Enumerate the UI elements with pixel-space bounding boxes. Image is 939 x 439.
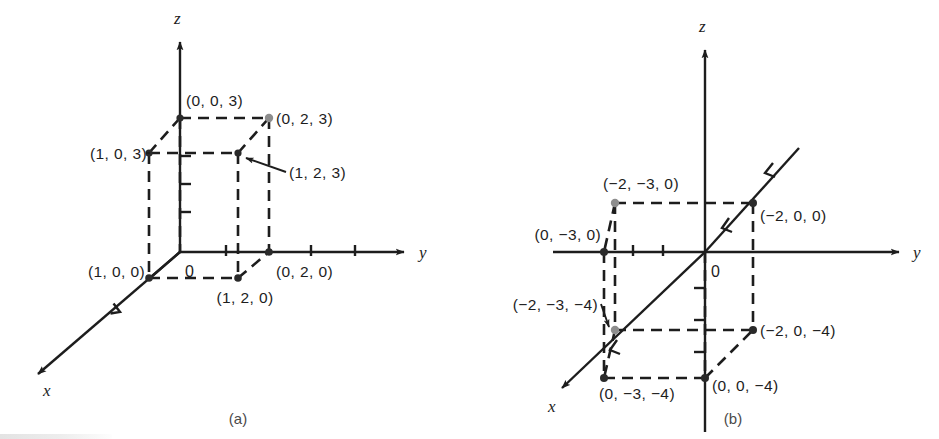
panel-a: z y x 0 (0, 0, 3) (0, 2, 3) (1, 0, 3) (1… [38,9,427,427]
panel-a-edge-origin-to-100 [150,252,180,278]
panel-b-label-0n30: (0, −3, 0) [535,226,601,243]
panel-b-label-n20n4: (−2, 0, −4) [760,322,836,339]
panel-a-vertex-120 [234,274,242,282]
panel-a-x-axis-label: x [42,381,51,400]
panel-b-edge-n2n3n4-to-0n3n4 [604,330,615,378]
coordinate-systems-figure: z y x 0 (0, 0, 3) (0, 2, 3) (1, 0, 3) (1… [0,0,939,439]
panel-a-label-123: (1, 2, 3) [289,164,346,181]
panel-b-vertex-n200 [749,199,757,207]
panel-b-label-n200: (−2, 0, 0) [760,207,826,224]
page-edge-artifact [0,434,112,439]
panel-a-vertex-100 [145,274,153,282]
panel-b-vertex-n2n30 [611,199,619,207]
panel-b-caption: (b) [724,410,742,427]
panel-a-vertex-123 [234,149,241,156]
panel-a-leader-123 [246,158,286,172]
panel-a-z-axis-label: z [173,9,181,28]
panel-a-origin-label: 0 [185,263,194,280]
panel-a-label-100: (1, 0, 0) [88,263,145,280]
panel-a-edge-003-to-103 [149,118,180,153]
panel-a-y-axis-label: y [417,243,427,262]
panel-b-origin-label: 0 [711,263,720,280]
panel-a-label-103: (1, 0, 3) [90,145,147,162]
panel-b-edge-00n4-to-n20n4 [705,330,753,378]
panel-b-vertex-0n30 [600,248,608,256]
panel-b-z-axis-label: z [698,17,706,36]
panel-a-label-023: (0, 2, 3) [276,110,333,127]
panel-a-vertex-023 [265,114,273,122]
panel-a-label-003: (0, 0, 3) [186,92,243,109]
panel-b-x-axis-positive [562,252,705,388]
panel-a-vertex-020 [265,248,273,256]
panel-b-label-n2n3n4: (−2, −3, −4) [513,296,598,313]
panel-b-label-00n4: (0, 0, −4) [712,377,778,394]
panel-b-vertex-00n4 [701,374,709,382]
panel-b-vertex-n20n4 [749,326,757,334]
panel-b-label-n2n30: (−2, −3, 0) [603,175,679,192]
panel-a-edge-023-to-123 [238,118,269,153]
panel-b-vertex-n2n3n4 [611,326,619,334]
panel-a-vertex-003 [176,114,183,121]
panel-b-vertex-0n3n4 [600,374,608,382]
panel-b-x-axis-label: x [547,397,556,416]
panel-b: z y x 0 (−2, −3, 0) (−2, 0, 0) (0, −3, 0… [513,17,921,432]
panel-a-caption: (a) [229,410,247,427]
panel-b-y-axis-label: y [911,243,921,262]
panel-b-edge-n2n30-to-0n30 [604,203,615,252]
panel-a-label-120: (1, 2, 0) [216,289,273,306]
figure-container: z y x 0 (0, 0, 3) (0, 2, 3) (1, 0, 3) (1… [0,0,939,439]
panel-a-edge-120-to-020 [238,252,269,278]
panel-a-label-020: (0, 2, 0) [276,263,333,280]
panel-b-label-0n3n4: (0, −3, −4) [599,385,675,402]
